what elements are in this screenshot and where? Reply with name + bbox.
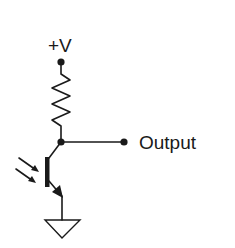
pull-up-resistor	[52, 62, 70, 142]
base-bar	[45, 157, 50, 187]
light-arrows-icon	[16, 158, 39, 183]
ground-icon	[45, 220, 80, 238]
output-label: Output	[139, 132, 197, 153]
circuit-diagram: +V Output	[0, 0, 235, 248]
output-terminal-dot	[120, 138, 127, 145]
collector-lead	[49, 142, 61, 158]
supply-label: +V	[48, 35, 72, 56]
